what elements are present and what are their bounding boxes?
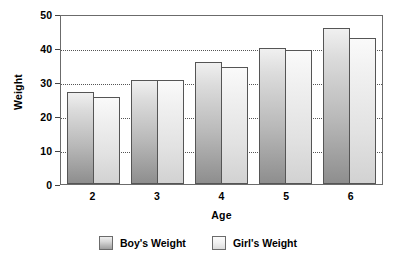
legend-label: Boy's Weight [120, 237, 186, 249]
bar[interactable] [195, 62, 222, 184]
bar-group [195, 16, 248, 184]
bar[interactable] [93, 97, 120, 184]
legend-swatch [212, 236, 226, 250]
bar-group [67, 16, 120, 184]
bar-group [259, 16, 312, 184]
legend-item[interactable]: Girl's Weight [212, 236, 297, 250]
bar-group [131, 16, 184, 184]
bar[interactable] [67, 92, 94, 184]
x-tick-label: 6 [323, 190, 379, 206]
bar[interactable] [131, 80, 158, 184]
x-tick-label: 4 [193, 190, 249, 206]
y-tick-label: 40 [22, 44, 52, 55]
bar-groups [61, 16, 382, 184]
legend-item[interactable]: Boy's Weight [99, 236, 186, 250]
bar[interactable] [259, 48, 286, 184]
y-tick-label: 10 [22, 146, 52, 157]
x-tick-label: 2 [64, 190, 120, 206]
bar[interactable] [157, 80, 184, 184]
x-tick-label: 5 [258, 190, 314, 206]
y-tick-label: 20 [22, 112, 52, 123]
chart-legend: Boy's WeightGirl's Weight [0, 236, 396, 250]
x-axis-title: Age [60, 209, 383, 221]
y-axis-tick-labels: 01020304050 [22, 0, 52, 264]
bar-chart: Weight 01020304050 23456 Age Boy's Weigh… [0, 0, 396, 264]
y-tick-label: 30 [22, 78, 52, 89]
bar[interactable] [323, 28, 350, 184]
x-axis-tick-labels: 23456 [60, 190, 383, 206]
bar[interactable] [349, 38, 376, 184]
x-tick-label: 3 [129, 190, 185, 206]
bar-group [323, 16, 376, 184]
legend-swatch [99, 236, 113, 250]
plot-area [60, 15, 383, 185]
bar[interactable] [285, 50, 312, 184]
y-tick-mark [55, 185, 60, 186]
legend-label: Girl's Weight [233, 237, 297, 249]
y-tick-label: 50 [22, 10, 52, 21]
y-tick-label: 0 [22, 180, 52, 191]
bar[interactable] [221, 67, 248, 184]
